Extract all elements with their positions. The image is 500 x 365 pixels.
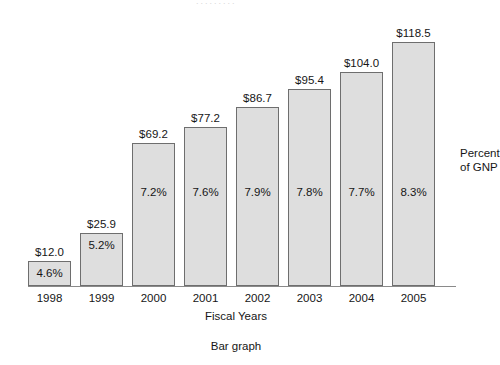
bar-group-2003: $95.47.8% (288, 18, 331, 286)
bar-2004[interactable] (340, 72, 383, 286)
bar-group-2002: $86.77.9% (236, 18, 279, 286)
bar-percent-label-2003: 7.8% (288, 186, 331, 198)
bar-percent-label-2005: 8.3% (392, 186, 435, 198)
figure-caption: Bar graph (0, 340, 500, 352)
x-tick-1998: 1998 (20, 292, 79, 304)
x-tick-2002: 2002 (228, 292, 287, 304)
bar-chart-figure: ......... $12.04.6%$25.95.2%$69.27.2%$77… (0, 0, 500, 365)
x-tick-1999: 1999 (72, 292, 131, 304)
x-tick-2001: 2001 (176, 292, 235, 304)
bar-value-label-2000: $69.2 (124, 128, 183, 140)
bar-group-1998: $12.04.6% (28, 18, 71, 286)
x-tick-2004: 2004 (332, 292, 391, 304)
x-axis-label-text: Fiscal Years (205, 310, 267, 322)
bar-percent-label-2000: 7.2% (132, 186, 175, 198)
figure-caption-text: Bar graph (211, 340, 262, 352)
bar-group-1999: $25.95.2% (80, 18, 123, 286)
legend-line-1: Percent (460, 146, 500, 160)
bar-percent-label-2004: 7.7% (340, 186, 383, 198)
bar-2001[interactable] (184, 127, 227, 286)
bar-value-label-2005: $118.5 (384, 27, 443, 39)
x-axis-baseline (28, 286, 456, 287)
legend-line-2: of GNP (460, 160, 500, 174)
bar-group-2000: $69.27.2% (132, 18, 175, 286)
x-tick-2003: 2003 (280, 292, 339, 304)
x-axis-label: Fiscal Years (0, 310, 500, 322)
clipped-header-text: ......... (196, 0, 316, 4)
bar-value-label-2003: $95.4 (280, 74, 339, 86)
bar-value-label-2002: $86.7 (228, 92, 287, 104)
bar-value-label-1999: $25.9 (72, 218, 131, 230)
bar-2000[interactable] (132, 143, 175, 286)
bar-value-label-1998: $12.0 (20, 246, 79, 258)
bar-group-2001: $77.27.6% (184, 18, 227, 286)
plot-area: $12.04.6%$25.95.2%$69.27.2%$77.27.6%$86.… (28, 18, 456, 286)
bar-value-label-2004: $104.0 (332, 57, 391, 69)
bar-percent-label-1999: 5.2% (80, 239, 123, 251)
x-tick-2005: 2005 (384, 292, 443, 304)
bar-2005[interactable] (392, 42, 435, 286)
bar-percent-label-1998: 4.6% (28, 267, 71, 279)
bar-group-2005: $118.58.3% (392, 18, 435, 286)
bar-percent-label-2001: 7.6% (184, 186, 227, 198)
x-tick-2000: 2000 (124, 292, 183, 304)
bar-group-2004: $104.07.7% (340, 18, 383, 286)
bar-value-label-2001: $77.2 (176, 112, 235, 124)
legend-percent-of-gnp: Percent of GNP (460, 146, 500, 174)
bar-percent-label-2002: 7.9% (236, 186, 279, 198)
